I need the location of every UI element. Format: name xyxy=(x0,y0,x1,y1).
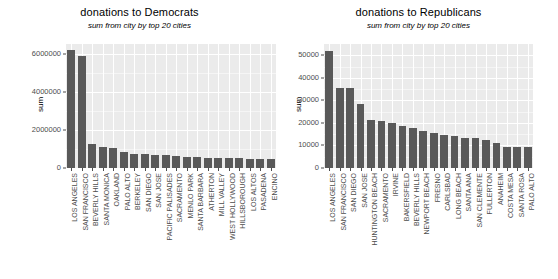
bar xyxy=(451,136,459,168)
x-tick-label: HUNTINGTON BEACH xyxy=(371,173,378,273)
x-tick-mark xyxy=(166,168,167,171)
x-tick-mark xyxy=(134,168,135,171)
x-tick-mark xyxy=(145,168,146,171)
chart-democrats: donations to Democrats sum from city by … xyxy=(0,0,279,279)
x-tick-label: ENCINO xyxy=(270,173,277,273)
gridline-minor-horizontal xyxy=(66,149,276,150)
x-tick-label: PACIFIC PALISADES xyxy=(165,173,172,273)
x-tick-mark xyxy=(208,168,209,171)
x-tick-label: PALO ALTO xyxy=(123,173,130,273)
x-tick-mark xyxy=(197,168,198,171)
x-tick-mark xyxy=(371,168,372,171)
y-tick-label: 0 xyxy=(57,164,61,172)
gridline-major-vertical xyxy=(134,44,135,168)
x-tick-label: ANAHEIM xyxy=(496,173,503,273)
gridline-minor-horizontal xyxy=(324,112,533,113)
x-tick-mark xyxy=(496,168,497,171)
x-tick-mark xyxy=(507,168,508,171)
x-tick-label: FRESNO xyxy=(433,173,440,273)
gridline-minor-horizontal xyxy=(324,134,533,135)
y-tick-mark xyxy=(63,129,66,130)
x-tick-mark xyxy=(465,168,466,171)
x-tick-mark xyxy=(444,168,445,171)
x-tick-mark xyxy=(381,168,382,171)
x-tick-mark xyxy=(486,168,487,171)
x-tick-label: SANTA ROSA xyxy=(517,173,524,273)
bar xyxy=(214,158,222,168)
y-tick-mark xyxy=(321,122,324,123)
gridline-major-vertical xyxy=(271,44,272,168)
y-tick-label: 0 xyxy=(315,164,319,172)
x-tick-mark xyxy=(271,168,272,171)
x-tick-mark xyxy=(155,168,156,171)
bar xyxy=(78,56,86,168)
bar xyxy=(162,155,170,168)
x-tick-mark xyxy=(402,168,403,171)
bar xyxy=(493,143,501,168)
gridline-major-vertical xyxy=(166,44,167,168)
x-tick-label: SAN JOSE xyxy=(155,173,162,273)
gridline-major-horizontal xyxy=(324,100,533,101)
gridline-major-vertical xyxy=(145,44,146,168)
gridline-major-vertical xyxy=(208,44,209,168)
bar xyxy=(346,88,354,168)
gridline-major-horizontal xyxy=(324,78,533,79)
bar xyxy=(120,152,128,168)
x-tick-mark xyxy=(340,168,341,171)
x-tick-label: BERKELEY xyxy=(134,173,141,273)
y-tick-mark xyxy=(63,91,66,92)
chart-republicans: donations to Republicans sum from city b… xyxy=(279,0,558,279)
gridline-major-vertical xyxy=(155,44,156,168)
gridline-major-horizontal xyxy=(324,55,533,56)
y-tick-mark xyxy=(321,55,324,56)
x-tick-label: ATHERTON xyxy=(207,173,214,273)
x-tick-label: SANTA BARBARA xyxy=(197,173,204,273)
gridline-minor-horizontal xyxy=(324,89,533,90)
bar xyxy=(151,155,159,168)
bar xyxy=(524,147,532,168)
x-tick-label: OAKLAND xyxy=(113,173,120,273)
gridline-minor-horizontal xyxy=(66,111,276,112)
x-tick-label: SACRAMENTO xyxy=(176,173,183,273)
x-tick-label: MENLO PARK xyxy=(186,173,193,273)
x-tick-mark xyxy=(455,168,456,171)
x-tick-mark xyxy=(124,168,125,171)
x-tick-label: BAKERSFIELD xyxy=(402,173,409,273)
y-tick-mark xyxy=(63,168,66,169)
x-tick-mark xyxy=(350,168,351,171)
gridline-major-horizontal xyxy=(66,130,276,131)
chart-democrats-titles: donations to Democrats sum from city by … xyxy=(0,6,279,31)
x-tick-label: CARLSBAD xyxy=(444,173,451,273)
x-tick-mark xyxy=(413,168,414,171)
bar xyxy=(130,154,138,168)
x-tick-label: PALO ALTO xyxy=(527,173,534,273)
bar xyxy=(513,147,521,168)
bar xyxy=(88,144,96,168)
y-tick-label: 40000 xyxy=(298,74,319,82)
x-tick-mark xyxy=(82,168,83,171)
y-tick-mark xyxy=(321,145,324,146)
chart-republicans-title: donations to Republicans xyxy=(279,6,558,19)
x-tick-label: SAN JOSE xyxy=(360,173,367,273)
x-tick-label: SANTA MONICA xyxy=(102,173,109,273)
chart-republicans-subtitle: sum from city by top 20 cities xyxy=(279,20,558,31)
bar xyxy=(235,158,243,168)
chart-democrats-subtitle: sum from city by top 20 cities xyxy=(0,20,279,31)
x-tick-mark xyxy=(176,168,177,171)
x-tick-label: SACRAMENTO xyxy=(381,173,388,273)
y-tick-mark xyxy=(321,77,324,78)
x-tick-label: SAN FRANCISCO xyxy=(81,173,88,273)
chart-democrats-plot-panel xyxy=(66,44,276,168)
y-tick-label: 6000000 xyxy=(32,50,61,58)
bar xyxy=(472,138,480,168)
bar xyxy=(378,121,386,168)
gridline-major-horizontal xyxy=(66,92,276,93)
x-tick-mark xyxy=(423,168,424,171)
bar xyxy=(440,135,448,168)
x-tick-label: WEST HOLLYWOOD xyxy=(228,173,235,273)
gridline-major-vertical xyxy=(229,44,230,168)
gridline-minor-horizontal xyxy=(66,73,276,74)
x-tick-mark xyxy=(250,168,251,171)
x-tick-mark xyxy=(103,168,104,171)
gridline-minor-horizontal xyxy=(324,67,533,68)
